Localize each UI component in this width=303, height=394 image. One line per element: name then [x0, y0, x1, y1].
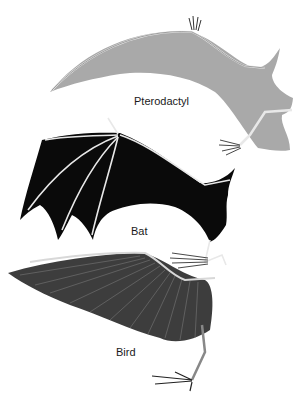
- wing-comparison-diagram: [0, 0, 303, 394]
- label-pterodactyl: Pterodactyl: [134, 95, 189, 107]
- bat-foot-claws: [170, 253, 208, 268]
- pterodactyl-foot-claws: [219, 140, 241, 155]
- bat-leg-bone: [205, 240, 226, 265]
- label-bird: Bird: [116, 346, 136, 358]
- bat-wing: [20, 118, 235, 268]
- label-bat: Bat: [131, 225, 148, 237]
- pterodactyl-hand-claws: [189, 16, 201, 31]
- bird-foot-claws: [152, 372, 192, 391]
- bird-wing: [8, 252, 215, 391]
- pterodactyl-membrane: [50, 32, 293, 151]
- bat-membrane: [20, 133, 235, 242]
